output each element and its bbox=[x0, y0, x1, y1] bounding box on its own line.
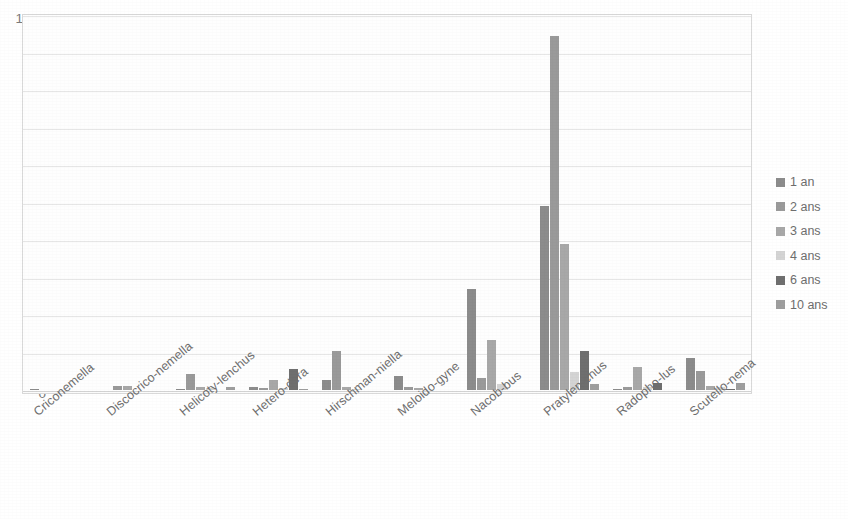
legend-item[interactable]: 6 ans bbox=[776, 268, 846, 293]
bar bbox=[633, 367, 642, 390]
bar bbox=[686, 358, 695, 390]
bar-group bbox=[540, 15, 602, 390]
bar-group bbox=[686, 15, 748, 390]
bar-group bbox=[103, 15, 165, 390]
bar bbox=[736, 383, 745, 390]
bar bbox=[249, 387, 258, 390]
legend-label: 4 ans bbox=[790, 249, 821, 263]
bar bbox=[186, 374, 195, 390]
legend-swatch-icon bbox=[776, 300, 785, 309]
bar bbox=[123, 386, 132, 390]
bar-group bbox=[394, 15, 456, 390]
bar bbox=[487, 340, 496, 390]
bar bbox=[289, 369, 298, 390]
bar bbox=[226, 387, 235, 390]
bar-group bbox=[249, 15, 311, 390]
bar bbox=[269, 380, 278, 391]
bar-group bbox=[30, 15, 92, 390]
bar bbox=[706, 386, 715, 390]
bar bbox=[299, 389, 308, 390]
legend-swatch-icon bbox=[776, 227, 785, 236]
bar bbox=[332, 351, 341, 390]
bar bbox=[477, 378, 486, 390]
legend: 1 an2 ans3 ans4 ans6 ans10 ans bbox=[776, 170, 846, 317]
bar bbox=[716, 387, 725, 390]
legend-item[interactable]: 4 ans bbox=[776, 244, 846, 269]
legend-swatch-icon bbox=[776, 251, 785, 260]
bar bbox=[206, 388, 215, 390]
bar bbox=[590, 384, 599, 390]
bar bbox=[623, 387, 632, 390]
bar-group bbox=[322, 15, 384, 390]
bar bbox=[643, 387, 652, 390]
bar bbox=[322, 380, 331, 391]
axis-baseline bbox=[23, 391, 751, 392]
legend-label: 3 ans bbox=[790, 224, 821, 238]
bar bbox=[497, 384, 506, 390]
bar bbox=[696, 371, 705, 391]
bar bbox=[342, 387, 351, 390]
bar bbox=[570, 372, 579, 390]
bar bbox=[404, 387, 413, 390]
bar bbox=[176, 389, 185, 390]
legend-item[interactable]: 1 an bbox=[776, 170, 846, 195]
bar bbox=[30, 389, 39, 390]
bar bbox=[352, 389, 361, 391]
bar-group bbox=[176, 15, 238, 390]
bar bbox=[113, 386, 122, 390]
bar-chart: 01002003004005006007008009001000 Cricone… bbox=[0, 0, 848, 519]
bar bbox=[394, 376, 403, 390]
bar-group bbox=[467, 15, 529, 390]
legend-item[interactable]: 2 ans bbox=[776, 195, 846, 220]
legend-label: 10 ans bbox=[790, 298, 828, 312]
bar-group bbox=[613, 15, 675, 390]
bar bbox=[613, 389, 622, 390]
legend-label: 6 ans bbox=[790, 273, 821, 287]
legend-swatch-icon bbox=[776, 276, 785, 285]
bar bbox=[653, 383, 662, 390]
legend-item[interactable]: 10 ans bbox=[776, 293, 846, 318]
bar bbox=[279, 388, 288, 390]
legend-label: 1 an bbox=[790, 175, 814, 189]
bar bbox=[726, 389, 735, 391]
legend-item[interactable]: 3 ans bbox=[776, 219, 846, 244]
legend-swatch-icon bbox=[776, 202, 785, 211]
bar bbox=[196, 387, 205, 390]
bar bbox=[259, 388, 268, 390]
bar bbox=[414, 388, 423, 390]
legend-label: 2 ans bbox=[790, 200, 821, 214]
legend-swatch-icon bbox=[776, 178, 785, 187]
bar bbox=[560, 244, 569, 390]
bar bbox=[580, 351, 589, 390]
bar bbox=[467, 289, 476, 390]
bar bbox=[550, 36, 559, 390]
plot-area bbox=[23, 15, 751, 390]
bar bbox=[540, 206, 549, 390]
